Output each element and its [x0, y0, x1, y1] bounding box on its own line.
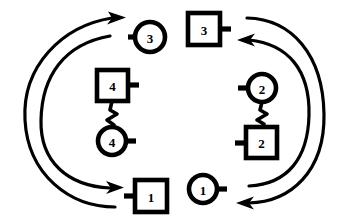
circle-3-label: 3 — [147, 31, 154, 46]
node-circle-4[interactable]: 4 — [98, 127, 136, 155]
right-inner-arc — [237, 34, 309, 187]
square-3-label: 3 — [201, 23, 208, 38]
left-inner-arc — [41, 36, 124, 194]
square-1-label: 1 — [148, 190, 155, 205]
right-outer-arc — [236, 18, 324, 210]
node-square-2[interactable]: 2 — [235, 127, 277, 158]
node-circle-3[interactable]: 3 — [128, 22, 165, 52]
zigzag-2-path — [257, 102, 267, 127]
zigzag-connector-2 — [257, 102, 267, 127]
zigzag-connector-4 — [107, 101, 117, 127]
circle-2-label: 2 — [259, 82, 266, 97]
node-square-4[interactable]: 4 — [97, 70, 139, 101]
node-circle-2[interactable]: 2 — [238, 74, 276, 102]
zigzag-4-path — [107, 101, 117, 127]
left-inner-arc-path — [41, 36, 110, 188]
node-square-1[interactable]: 1 — [124, 180, 167, 212]
circle-4-label: 4 — [109, 135, 116, 150]
right-inner-arc-path — [249, 40, 309, 186]
square-2-label: 2 — [258, 136, 265, 151]
node-circle-1[interactable]: 1 — [189, 175, 227, 203]
schematic-diagram: 3 3 4 4 2 2 — [0, 0, 347, 224]
diagram-canvas: 3 3 4 4 2 2 — [0, 0, 347, 224]
node-square-3[interactable]: 3 — [188, 13, 231, 45]
square-4-label: 4 — [109, 79, 116, 94]
circle-1-label: 1 — [200, 183, 207, 198]
